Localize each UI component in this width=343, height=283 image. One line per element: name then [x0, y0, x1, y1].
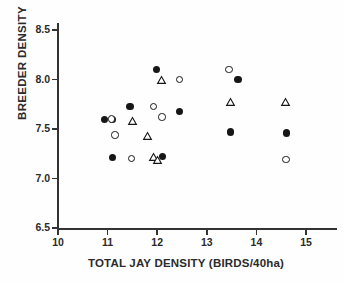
y-tick-label: 6.5: [10, 221, 50, 233]
data-point-filled-circle: [234, 76, 241, 83]
x-tick-mark: [206, 229, 208, 235]
y-tick-mark: [52, 29, 58, 31]
data-point-open-circle: [176, 76, 183, 83]
x-tick-mark: [156, 229, 158, 235]
y-axis-line: [57, 23, 59, 230]
data-point-open-circle: [128, 155, 135, 162]
data-point-open-circle: [111, 131, 118, 138]
data-point-filled-circle: [176, 108, 183, 115]
data-point-open-circle: [108, 115, 115, 122]
y-axis-title: BREEDER DENSITY: [16, 0, 28, 143]
x-axis-line: [57, 228, 337, 230]
data-point-open-circle: [158, 113, 165, 120]
x-tick-mark: [57, 229, 59, 235]
data-point-filled-circle: [227, 128, 234, 135]
scatter-plot-figure: 6.57.07.58.08.5 101112131415 BREEDER DEN…: [0, 0, 343, 283]
x-tick-label: 11: [93, 236, 123, 248]
x-tick-label: 15: [291, 236, 321, 248]
data-point-filled-circle: [126, 103, 133, 110]
data-point-open-triangle: [226, 98, 235, 106]
y-tick-mark: [52, 128, 58, 130]
x-axis-title: TOTAL JAY DENSITY (BIRDS/40ha): [46, 257, 326, 269]
x-tick-label: 10: [43, 236, 73, 248]
data-point-filled-circle: [101, 116, 108, 123]
x-tick-label: 14: [241, 236, 271, 248]
y-tick-label: 7.0: [10, 172, 50, 184]
plot-frame: 6.57.07.58.08.5 101112131415: [0, 0, 343, 283]
y-tick-mark: [52, 178, 58, 180]
data-point-open-circle: [225, 66, 232, 73]
x-tick-mark: [305, 229, 307, 235]
data-point-filled-circle: [283, 129, 290, 136]
data-point-open-triangle: [153, 156, 162, 164]
x-tick-mark: [107, 229, 109, 235]
x-tick-label: 12: [142, 236, 172, 248]
data-point-filled-circle: [153, 66, 160, 73]
data-point-open-circle: [282, 156, 289, 163]
data-point-open-circle: [150, 103, 157, 110]
data-point-open-triangle: [143, 132, 152, 140]
x-tick-label: 13: [192, 236, 222, 248]
data-point-open-triangle: [157, 76, 166, 84]
data-point-filled-circle: [109, 154, 116, 161]
y-tick-mark: [52, 79, 58, 81]
data-point-open-triangle: [281, 98, 290, 106]
data-point-open-triangle: [128, 117, 137, 125]
x-tick-mark: [256, 229, 258, 235]
